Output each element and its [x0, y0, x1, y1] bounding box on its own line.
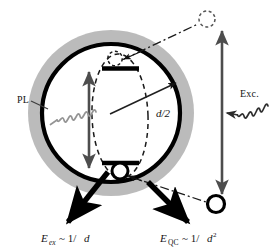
escaped-electron-dashed-circle: [199, 11, 215, 27]
qc-energy-relation: ~ 1/: [182, 232, 200, 244]
escaped-hole-circle: [208, 196, 225, 213]
exciton-energy-label: E ex ~ 1/ d: [40, 232, 90, 247]
exciton-energy-subscript: ex: [49, 238, 56, 247]
qc-energy-exponent: 2: [213, 231, 217, 239]
radius-label: d/2: [156, 107, 171, 119]
exciton-energy-relation: ~ 1/: [59, 232, 77, 244]
qc-energy-symbol: E: [159, 232, 167, 244]
exciton-energy-variable: d: [84, 232, 90, 244]
nanoparticle-diagram: PL Exc. d/2 E ex ~ 1/ d: [0, 0, 277, 252]
qc-energy-subscript: QC: [168, 238, 178, 247]
exc-label: Exc.: [240, 88, 259, 99]
figure-root: PL Exc. d/2 E ex ~ 1/ d: [0, 0, 277, 252]
excitation-wave: [227, 104, 268, 118]
pl-label: PL: [17, 94, 29, 105]
exciton-energy-symbol: E: [40, 232, 48, 244]
quantum-confinement-arrow: [148, 182, 188, 222]
hole-circle: [112, 163, 128, 179]
quantum-confinement-label: E QC ~ 1/ d 2: [159, 231, 217, 247]
